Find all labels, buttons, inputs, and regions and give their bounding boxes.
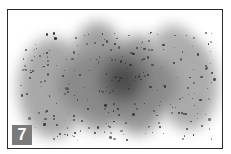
- illustration-frame: 7: [7, 9, 223, 149]
- figure-number-badge: 7: [12, 125, 32, 145]
